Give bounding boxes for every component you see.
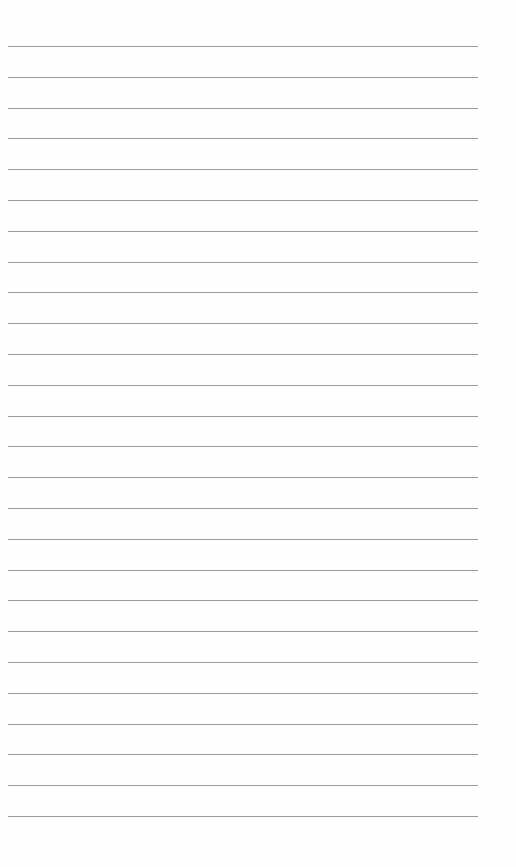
ruled-line: [8, 754, 478, 755]
ruled-line: [8, 138, 478, 139]
ruled-line: [8, 477, 478, 478]
ruled-line: [8, 600, 478, 601]
ruled-line: [8, 416, 478, 417]
ruled-line: [8, 46, 478, 47]
ruled-line: [8, 77, 478, 78]
ruled-line: [8, 385, 478, 386]
lined-paper-sheet: [0, 0, 516, 867]
ruled-line: [8, 446, 478, 447]
ruled-line: [8, 724, 478, 725]
ruled-line: [8, 262, 478, 263]
ruled-line: [8, 570, 478, 571]
ruled-line: [8, 816, 478, 817]
ruled-line: [8, 354, 478, 355]
ruled-line: [8, 323, 478, 324]
ruled-line: [8, 693, 478, 694]
ruled-line: [8, 631, 478, 632]
ruled-line: [8, 785, 478, 786]
ruled-line: [8, 108, 478, 109]
ruled-line: [8, 200, 478, 201]
ruled-line: [8, 231, 478, 232]
ruled-line: [8, 662, 478, 663]
ruled-line: [8, 169, 478, 170]
ruled-line: [8, 292, 478, 293]
ruled-line: [8, 508, 478, 509]
ruled-line: [8, 539, 478, 540]
